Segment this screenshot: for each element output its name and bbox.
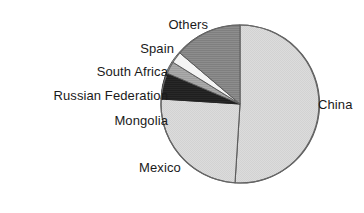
pie-label-spain: Spain (100, 42, 174, 55)
pie-label-mexico: Mexico (128, 161, 192, 174)
pie-label-mongolia: Mongolia (86, 114, 168, 127)
pie-label-russian-federation: Russian Federation (28, 89, 168, 102)
pie-label-others: Others (132, 18, 208, 31)
pie-chart-figure: China Mexico Mongolia Russian Federation… (0, 0, 364, 213)
pie-slice-china[interactable] (235, 25, 320, 183)
pie-label-china: China (318, 98, 352, 111)
pie-label-south-africa: South Africa (60, 65, 168, 78)
